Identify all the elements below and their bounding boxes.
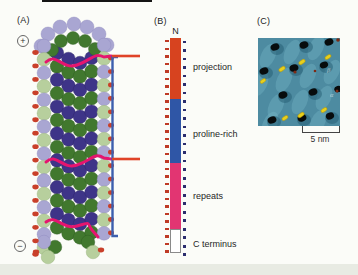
plus-end-marker: +	[18, 36, 29, 47]
repeats-label: repeats	[193, 191, 223, 201]
proline-rich-label: proline-rich	[193, 129, 238, 139]
c-terminus-label: C terminus	[193, 239, 237, 249]
afm-micrograph: β α	[258, 38, 340, 126]
red-tick-column	[165, 40, 169, 256]
panel-b-label: (B)	[154, 16, 167, 26]
n-terminus-label: N	[168, 26, 183, 36]
plus-symbol: +	[20, 36, 25, 46]
span-bracket	[113, 57, 119, 236]
figure: (A) + − (B) N	[0, 0, 358, 275]
projection-label: projection	[193, 62, 232, 72]
scale-bar-label: 5 nm	[296, 134, 344, 144]
minus-end-marker: −	[15, 241, 26, 252]
scale-bar	[302, 126, 340, 133]
tau-domain-bar	[170, 38, 181, 253]
tau-projection-lines	[112, 56, 140, 159]
alpha-tubulin-annotation: α	[330, 91, 334, 98]
segment-projection	[170, 38, 181, 99]
navy-tick-column	[183, 41, 187, 257]
segment-c-terminus	[170, 229, 181, 253]
microtubule-lattice-diagram: + −	[0, 0, 150, 275]
minus-symbol: −	[17, 241, 22, 251]
segment-repeats	[170, 163, 181, 229]
segment-proline-rich	[170, 99, 181, 163]
panel-c-label: (C)	[257, 16, 270, 26]
